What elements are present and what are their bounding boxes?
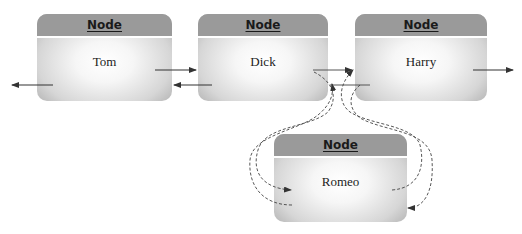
node-tom: Node Tom xyxy=(37,14,172,101)
node-romeo: Node Romeo xyxy=(274,134,407,222)
node-header: Node xyxy=(274,134,407,158)
node-dick: Node Dick xyxy=(198,14,328,101)
node-harry: Node Harry xyxy=(355,14,487,101)
node-header: Node xyxy=(198,14,328,38)
node-value: Tom xyxy=(37,54,172,70)
node-title: Node xyxy=(245,18,280,32)
node-title: Node xyxy=(323,138,358,152)
node-value: Romeo xyxy=(274,174,407,190)
node-header: Node xyxy=(355,14,487,38)
node-title: Node xyxy=(87,18,122,32)
node-title: Node xyxy=(403,18,438,32)
node-value: Harry xyxy=(355,54,487,70)
node-value: Dick xyxy=(198,54,328,70)
node-header: Node xyxy=(37,14,172,38)
